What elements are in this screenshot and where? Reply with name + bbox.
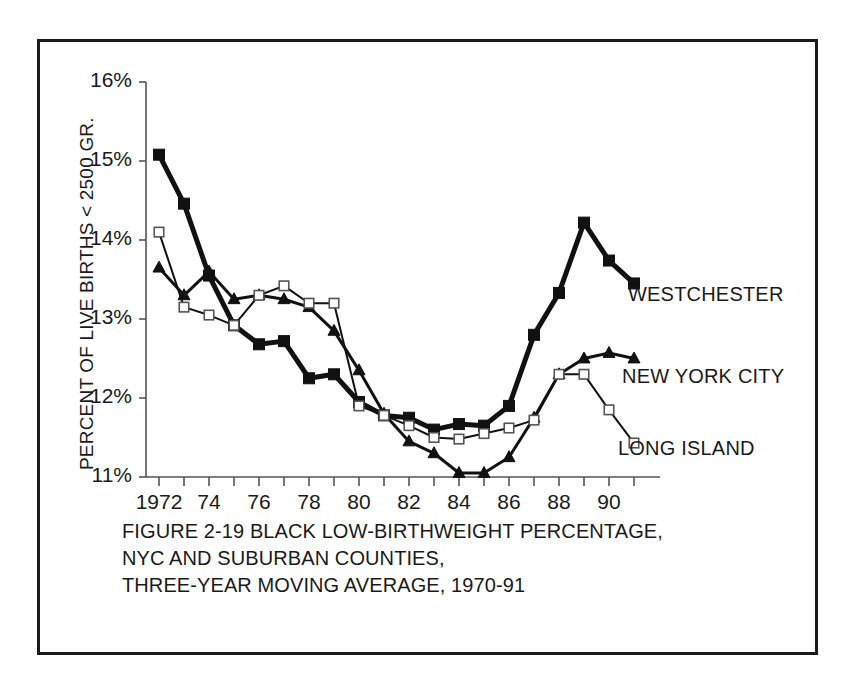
marker-long-island xyxy=(429,433,439,443)
marker-westchester xyxy=(504,400,515,411)
marker-new-york-city xyxy=(603,346,615,357)
marker-westchester xyxy=(579,217,590,228)
marker-long-island xyxy=(279,281,289,291)
x-axis-ticks xyxy=(159,477,634,486)
series-label-westchester: WESTCHESTER xyxy=(628,283,784,306)
marker-long-island xyxy=(379,411,389,421)
marker-long-island xyxy=(154,227,164,237)
series-line-long-island xyxy=(159,232,634,443)
caption-line-3: THREE-YEAR MOVING AVERAGE, 1970-91 xyxy=(122,572,722,599)
marker-westchester xyxy=(604,255,615,266)
marker-long-island xyxy=(579,370,589,380)
marker-long-island xyxy=(254,291,264,301)
y-tick-label: 16% xyxy=(70,68,132,92)
y-tick-label: 11% xyxy=(70,463,132,487)
marker-westchester xyxy=(529,329,540,340)
marker-westchester xyxy=(179,198,190,209)
marker-long-island xyxy=(454,434,464,444)
figure-root: PERCENT OF LIVE BIRTHS < 2500 GR. 16%15%… xyxy=(0,0,851,692)
marker-westchester xyxy=(454,419,465,430)
marker-westchester xyxy=(304,373,315,384)
series-label-new-york-city: NEW YORK CITY xyxy=(622,365,784,388)
y-axis-ticks xyxy=(139,82,146,477)
marker-westchester xyxy=(554,287,565,298)
figure-caption: FIGURE 2-19 BLACK LOW-BIRTHWEIGHT PERCEN… xyxy=(122,518,722,599)
series-lines xyxy=(159,155,634,473)
marker-long-island xyxy=(554,370,564,380)
y-tick-label: 12% xyxy=(70,384,132,408)
marker-westchester xyxy=(154,149,165,160)
marker-new-york-city xyxy=(153,261,165,272)
marker-long-island xyxy=(404,421,414,431)
marker-long-island xyxy=(529,415,539,425)
y-tick-label: 15% xyxy=(70,147,132,171)
marker-long-island xyxy=(179,302,189,312)
caption-line-1: FIGURE 2-19 BLACK LOW-BIRTHWEIGHT PERCEN… xyxy=(122,518,722,545)
marker-long-island xyxy=(354,401,364,411)
series-label-long-island: LONG ISLAND xyxy=(618,437,755,460)
marker-long-island xyxy=(504,423,514,433)
marker-long-island xyxy=(479,429,489,439)
y-tick-label: 14% xyxy=(70,226,132,250)
y-tick-label: 13% xyxy=(70,305,132,329)
marker-long-island xyxy=(204,310,214,320)
marker-long-island xyxy=(604,405,614,415)
marker-westchester xyxy=(254,339,265,350)
marker-westchester xyxy=(279,336,290,347)
marker-long-island xyxy=(329,298,339,308)
marker-long-island xyxy=(229,321,239,331)
marker-westchester xyxy=(329,369,340,380)
x-tick-label: 90 xyxy=(564,490,654,514)
caption-line-2: NYC AND SUBURBAN COUNTIES, xyxy=(122,545,722,572)
marker-long-island xyxy=(304,298,314,308)
